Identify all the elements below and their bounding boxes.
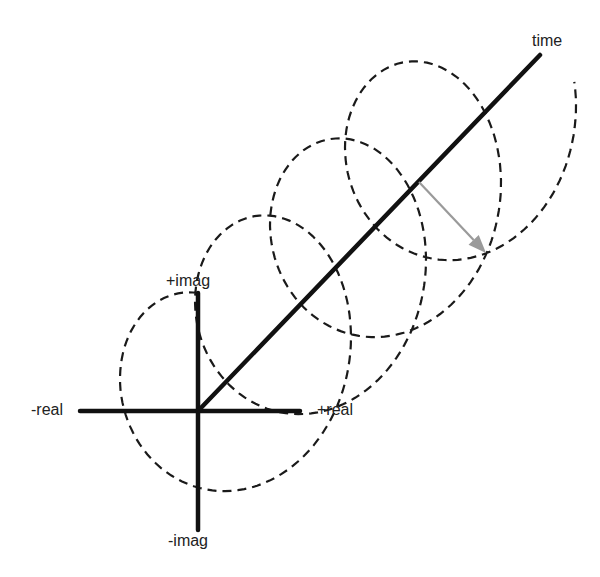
phasor-arrow bbox=[419, 182, 474, 240]
plus-real-label: +real bbox=[317, 401, 353, 419]
minus-real-label: -real bbox=[31, 401, 63, 419]
plus-imag-label: +imag bbox=[166, 272, 210, 290]
minus-imag-label: -imag bbox=[168, 532, 208, 550]
time-axis bbox=[198, 55, 540, 411]
time-label: time bbox=[532, 32, 562, 50]
diagram-canvas bbox=[0, 0, 600, 577]
helix-diagram: +imag -imag -real +real time bbox=[0, 0, 600, 577]
